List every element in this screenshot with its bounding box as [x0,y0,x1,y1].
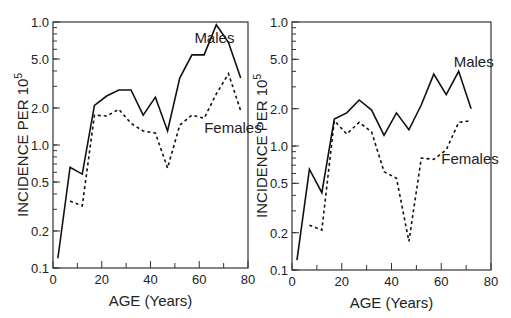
series-label: Males [194,29,234,46]
y-tick-label: 0.1 [31,261,49,276]
x-tick-label: 60 [192,272,206,287]
y-tick-label: 5.0 [31,52,49,67]
y-tick-label: 0.1 [270,263,288,278]
x-tick-label: 20 [335,274,349,289]
series-males [58,25,241,259]
y-axis-label: INCIDENCE PER 105 [13,73,31,217]
series-label: Males [454,53,494,70]
x-tick-label: 20 [95,272,109,287]
y-tick-label: 0.5 [270,176,288,191]
series-females [70,74,241,206]
y-tick-label: 5.0 [270,52,288,67]
x-tick-label: 0 [288,274,295,289]
y-tick-label: 1.0 [31,15,49,30]
x-tick-label: 80 [484,274,498,289]
y-tick-label: 1.0 [270,139,288,154]
series-females [309,121,471,242]
chart-canvas: 1.05.02.01.00.50.20.1020406080AGE (Years… [0,0,511,318]
y-tick-label: 0.2 [31,224,49,239]
x-axis-label: AGE (Years) [350,294,434,311]
x-tick-label: 40 [143,272,157,287]
chart-panel-2: 1.05.02.01.00.50.20.1020406080AGE (Years… [252,15,499,311]
chart-panel-1: 1.05.02.01.00.50.20.1020406080AGE (Years… [13,15,262,309]
y-tick-label: 2.0 [31,101,49,116]
plot-frame [53,22,248,268]
y-tick-label: 0.2 [270,226,288,241]
y-tick-label: 1.0 [31,138,49,153]
y-tick-label: 0.5 [31,175,49,190]
x-tick-label: 80 [241,272,255,287]
x-tick-label: 60 [434,274,448,289]
y-axis-label: INCIDENCE PER 105 [252,74,270,218]
y-tick-label: 2.0 [270,102,288,117]
x-axis-label: AGE (Years) [109,292,193,309]
x-tick-label: 0 [49,272,56,287]
y-tick-label: 1.0 [270,15,288,30]
x-tick-label: 40 [384,274,398,289]
series-label: Females [441,150,499,167]
